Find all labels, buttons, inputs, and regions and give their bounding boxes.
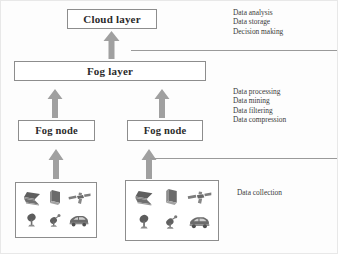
fog-edge-divider-line [150,158,338,159]
fog-layer-label: Fog layer [87,65,133,77]
annotation-line: Data compression [233,115,286,124]
edge-devices-right-grid [131,186,213,234]
edge-functions-annotation: Data collection [237,188,282,197]
edge-devices-left-grid [21,188,91,231]
annotation-line: Data processing [233,87,286,96]
fog-functions-annotation: Data processing Data mining Data filteri… [233,87,286,124]
fog-node-right-label: Fog node [144,125,187,136]
fog-layer-box: Fog layer [14,61,206,81]
edge-devices-right-box [125,180,219,241]
arrow-fog-to-cloud [103,31,120,59]
laptop-icon [23,191,43,207]
satellite-icon [187,191,212,206]
annotation-line: Data filtering [233,106,286,115]
antenna-icon [164,214,180,230]
satellite-dish-icon [137,214,153,230]
car-icon [188,215,211,229]
antenna-icon [48,213,63,228]
fog-node-left-box: Fog node [18,120,95,141]
tablet-icon [49,190,62,207]
fog-node-right-box: Fog node [127,120,203,141]
satellite-dish-icon [25,213,40,228]
laptop-icon [134,190,156,207]
satellite-icon [68,192,91,206]
annotation-line: Data storage [233,17,283,26]
annotation-line: Data mining [233,96,286,105]
cloud-layer-box: Cloud layer [67,9,157,29]
fog-node-left-label: Fog node [35,125,78,136]
diagram-canvas: Cloud layer Fog layer Fog node Fog node [0,0,338,254]
car-icon [68,214,90,227]
tablet-icon [165,189,179,207]
annotation-line: Decision making [233,27,283,36]
cloud-functions-annotation: Data analysis Data storage Decision maki… [233,8,283,36]
edge-devices-left-box [15,182,97,238]
arrow-devices-right-to-fog-node-right [141,149,157,179]
arrow-devices-left-to-fog-node-left [48,149,64,179]
cloud-layer-label: Cloud layer [83,13,141,25]
arrow-fog-node-left-to-fog-layer [47,89,63,118]
arrow-fog-node-right-to-fog-layer [154,89,170,118]
annotation-line: Data collection [237,188,282,197]
annotation-line: Data analysis [233,8,283,17]
cloud-fog-divider-line [131,50,338,51]
